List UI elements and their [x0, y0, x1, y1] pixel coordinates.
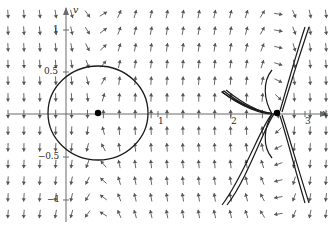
field-arrow: [54, 126, 58, 134]
field-arrow: [324, 126, 328, 134]
field-arrow: [197, 143, 201, 152]
field-arrow: [229, 10, 233, 18]
field-arrow: [38, 93, 42, 102]
field-arrow: [324, 193, 328, 202]
field-arrow: [6, 160, 10, 168]
field-arrow: [197, 193, 201, 201]
field-arrow: [275, 94, 281, 100]
field-arrow: [181, 27, 185, 35]
field-arrow: [260, 143, 264, 151]
field-arrow: [118, 27, 122, 35]
field-arrow: [324, 43, 328, 52]
field-arrow: [213, 10, 217, 18]
field-arrow: [245, 27, 249, 35]
field-arrow: [69, 210, 73, 218]
field-arrow: [85, 160, 89, 168]
field-arrow: [101, 144, 105, 152]
field-arrow: [181, 76, 185, 85]
field-arrow: [117, 143, 121, 151]
equilibrium-point-saddle: [274, 110, 280, 116]
field-arrow: [229, 126, 233, 134]
field-arrow: [117, 126, 121, 134]
field-arrow: [149, 193, 153, 201]
field-arrow: [149, 10, 153, 18]
field-arrow: [197, 76, 201, 85]
field-arrow: [117, 177, 121, 185]
field-arrow: [54, 93, 58, 102]
field-arrow: [213, 43, 217, 51]
field-arrow: [38, 176, 42, 185]
field-arrow: [85, 194, 90, 201]
field-arrow: [244, 143, 248, 152]
field-arrow: [165, 93, 169, 102]
y-axis-arrowhead: [63, 7, 69, 15]
y-tick-label-neg0.5: −0.5: [38, 152, 59, 161]
field-arrow: [324, 26, 328, 35]
field-arrow: [197, 177, 201, 185]
field-arrow: [213, 93, 217, 102]
field-arrow: [274, 162, 282, 166]
field-arrow: [308, 10, 312, 18]
field-arrow: [181, 10, 185, 18]
field-arrow: [292, 193, 296, 201]
field-arrow: [260, 160, 264, 168]
axes-group: [8, 7, 328, 222]
field-arrow: [6, 126, 10, 134]
field-arrow: [274, 46, 282, 50]
field-arrow: [54, 210, 58, 218]
field-arrow: [274, 196, 282, 200]
field-arrow: [38, 43, 42, 52]
field-arrow: [22, 60, 26, 68]
field-arrow: [54, 43, 58, 52]
field-arrow: [181, 60, 185, 68]
field-arrow: [117, 77, 121, 85]
field-arrow: [293, 27, 297, 35]
field-arrow: [213, 160, 217, 168]
field-arrow: [213, 193, 217, 201]
field-arrow: [308, 43, 312, 51]
phase-portrait-figure: v x 1 0.5 −0.5 −1 1 2 3: [0, 0, 328, 230]
field-arrow: [86, 77, 90, 85]
field-arrow: [165, 193, 169, 201]
field-arrow: [149, 93, 153, 102]
field-arrow: [165, 126, 169, 134]
y-axis-name-label: v: [73, 5, 78, 15]
field-arrow: [274, 12, 282, 16]
field-arrow: [292, 177, 296, 185]
field-arrow: [197, 126, 201, 134]
field-arrow: [117, 93, 121, 102]
field-arrow: [6, 143, 10, 152]
field-arrow: [6, 76, 10, 85]
field-arrow: [244, 210, 248, 218]
field-arrow: [54, 160, 58, 168]
field-arrow: [274, 62, 282, 66]
field-arrow: [6, 193, 10, 202]
x-axis-name-label: x: [322, 108, 327, 118]
field-arrow: [308, 60, 312, 68]
field-arrow: [100, 12, 107, 17]
field-arrow: [260, 27, 264, 35]
field-arrow: [86, 44, 90, 52]
field-arrow: [165, 143, 169, 152]
field-arrow: [70, 43, 74, 51]
field-arrow: [6, 26, 10, 35]
field-arrow: [228, 160, 232, 168]
field-arrow: [149, 76, 153, 85]
field-arrow: [260, 93, 264, 102]
field-arrow: [85, 27, 90, 34]
field-arrow: [165, 76, 169, 85]
field-arrow: [100, 28, 107, 33]
field-arrow: [181, 210, 185, 218]
field-arrow: [245, 93, 249, 102]
field-arrow: [181, 160, 185, 168]
field-arrow: [149, 126, 153, 134]
field-arrow: [133, 27, 137, 35]
field-arrow: [133, 193, 137, 201]
field-arrow: [38, 126, 42, 134]
field-arrow: [228, 210, 232, 218]
field-arrow: [22, 143, 26, 152]
field-arrow: [54, 10, 58, 18]
field-arrow: [245, 76, 249, 85]
field-arrow: [100, 178, 106, 184]
field-arrow: [22, 176, 26, 185]
